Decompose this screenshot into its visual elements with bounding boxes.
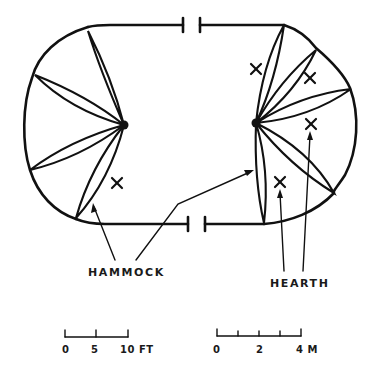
arrowhead-icon (307, 131, 313, 140)
pointer-line (136, 172, 250, 260)
top-wall-left (88, 25, 183, 27)
scale-bar-feet: 0 5 10 FT (62, 330, 154, 355)
bottom-wall-left (76, 219, 188, 224)
left-hammocks (30, 31, 129, 218)
scale-meters-4: 4 M (296, 344, 318, 355)
arrowhead-icon (244, 170, 254, 176)
scale-bar-meters: 0 2 4 M (213, 329, 318, 355)
right-hammocks (252, 25, 352, 223)
hearth-x-icon (306, 119, 316, 129)
hammock (256, 123, 266, 223)
scale-feet-0: 0 (62, 344, 69, 355)
pointer-line (94, 207, 115, 260)
left-apse-wall (24, 27, 88, 219)
pointer-line (280, 193, 284, 271)
house-floor-plan: HAMMOCK HEARTH 0 5 10 FT 0 2 4 M (0, 0, 376, 379)
hearth-x-icon (275, 177, 285, 187)
hammock (256, 89, 351, 123)
right-hammock-post (252, 119, 261, 128)
scale-feet-10: 10 FT (120, 344, 154, 355)
hearth-x-icon (251, 64, 261, 74)
scale-meters-2: 2 (256, 344, 263, 355)
hearth-label: HEARTH (270, 277, 330, 290)
hearth-x-icon (305, 73, 315, 83)
hearth-pointers: HEARTH (270, 131, 330, 290)
hammock-label: HAMMOCK (88, 266, 165, 279)
hammock (256, 123, 334, 193)
left-hammock-post (120, 121, 129, 130)
arrowhead-icon (277, 189, 283, 198)
hearth-x-icon (112, 178, 122, 188)
scale-feet-5: 5 (91, 344, 98, 355)
hearths (112, 64, 316, 188)
scale-meters-0: 0 (213, 344, 220, 355)
